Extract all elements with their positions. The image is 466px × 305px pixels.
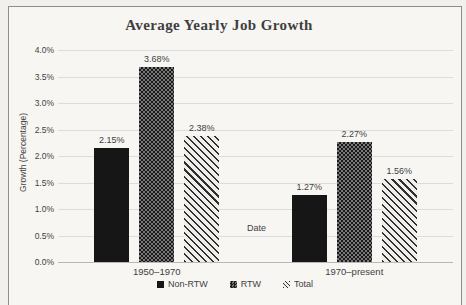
gridline [58,130,453,131]
legend-label: RTW [241,279,261,289]
legend-item: Non-RTW [157,279,208,289]
legend-item: Total [283,279,313,289]
bar-value-label: 2.27% [332,129,376,139]
bar [337,142,372,262]
non-rtw-legend-marker-icon [157,281,164,288]
y-tick-label: 4.0% [14,45,54,56]
bar [382,179,417,262]
bar-value-label: 1.27% [287,182,331,192]
gridline [58,262,453,263]
chart-frame: Average Yearly Job Growth Growth (Percen… [8,6,462,305]
y-tick-label: 1.5% [14,178,54,189]
bar-value-label: 2.38% [180,123,224,133]
category-label: 1950–1970 [112,266,202,277]
legend-label: Non-RTW [168,279,208,289]
gridline [58,103,453,104]
bar [292,195,327,262]
legend-item: RTW [230,279,261,289]
y-tick-label: 2.0% [14,151,54,162]
y-tick-label: 3.5% [14,72,54,83]
bar [184,136,219,262]
y-tick-label: 0.0% [14,257,54,268]
y-tick-label: 0.5% [14,231,54,242]
bar-value-label: 2.15% [90,135,134,145]
chart-title: Average Yearly Job Growth [0,17,445,34]
page-background: Average Yearly Job Growth Growth (Percen… [0,0,466,305]
category-label: 1970–present [309,266,399,277]
plot-area: Date 2.15%3.68%2.38%1950–19701.27%2.27%1… [58,50,453,262]
bar [139,67,174,262]
legend-label: Total [294,279,313,289]
bar-value-label: 1.56% [377,166,421,176]
gridline [58,77,453,78]
rtw-legend-marker-icon [230,281,237,288]
y-tick-label: 3.0% [14,98,54,109]
y-tick-label: 1.0% [14,204,54,215]
bar-value-label: 3.68% [135,54,179,64]
y-tick-label: 2.5% [14,125,54,136]
gridline [58,50,453,51]
legend: Non-RTWRTWTotal [9,279,461,289]
total-legend-marker-icon [283,281,290,288]
x-axis-title: Date [247,223,266,233]
bar [94,148,129,262]
